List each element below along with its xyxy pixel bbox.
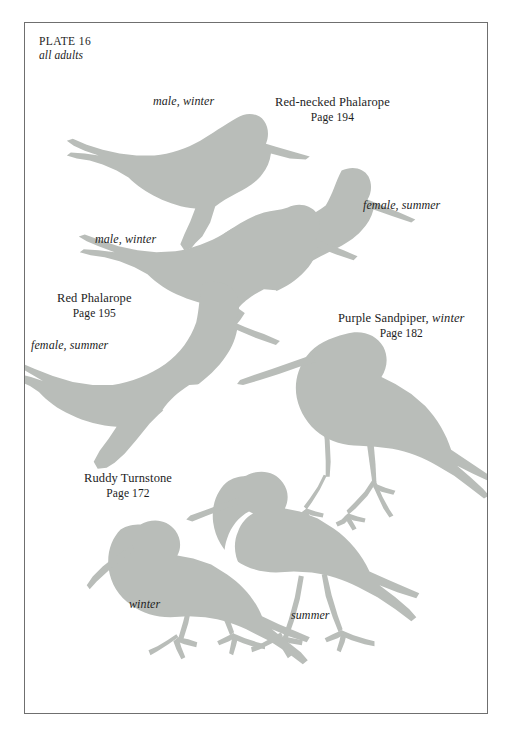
species-page: Page 172 — [84, 487, 172, 500]
species-name: Red Phalarope — [57, 291, 132, 306]
plate-number: PLATE 16 — [39, 35, 91, 48]
species-label-red-necked-phalarope: Red-necked Phalarope Page 194 — [275, 95, 390, 124]
plate-subtitle: all adults — [39, 49, 91, 62]
species-name: Red-necked Phalarope — [275, 95, 390, 110]
plate-page: .sil { fill: #b9bdb9; } .cut { fill: #ff… — [0, 0, 512, 732]
species-page: Page 194 — [275, 111, 390, 124]
morph-label-red-necked-phalarope-female-summer: female, summer — [363, 199, 440, 213]
species-label-ruddy-turnstone: Ruddy Turnstone Page 172 — [84, 471, 172, 500]
ruddy-turnstone-summer-silhouette — [186, 472, 419, 658]
plate-frame-border: .sil { fill: #b9bdb9; } .cut { fill: #ff… — [24, 22, 488, 714]
species-label-purple-sandpiper: Purple Sandpiper, winter Page 182 — [338, 311, 465, 340]
morph-label-ruddy-turnstone-winter: winter — [129, 598, 160, 612]
species-page: Page 195 — [57, 307, 132, 320]
morph-label-ruddy-turnstone-summer: summer — [291, 609, 330, 623]
morph-label-red-phalarope-male-winter: male, winter — [95, 233, 156, 247]
morph-label-red-necked-phalarope-male-winter: male, winter — [153, 95, 214, 109]
morph-label-red-phalarope-female-summer: female, summer — [31, 339, 108, 353]
species-name-plumage: winter — [432, 311, 465, 325]
species-name: Purple Sandpiper, winter — [338, 311, 465, 326]
species-page: Page 182 — [338, 327, 465, 340]
species-name: Ruddy Turnstone — [84, 471, 172, 486]
plate-header: PLATE 16 all adults — [39, 35, 91, 63]
species-name-text: Purple Sandpiper, — [338, 311, 429, 325]
bird-silhouette-artwork: .sil { fill: #b9bdb9; } .cut { fill: #ff… — [25, 23, 487, 713]
species-label-red-phalarope: Red Phalarope Page 195 — [57, 291, 132, 320]
